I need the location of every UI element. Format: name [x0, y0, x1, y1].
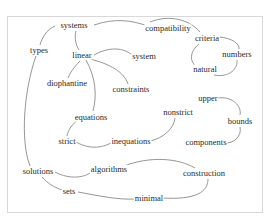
node-algorithms: algorithms — [90, 165, 128, 174]
node-criteria: criteria — [194, 34, 220, 43]
node-solutions: solutions — [22, 167, 55, 176]
node-types: types — [29, 46, 49, 55]
edge-linear-diophantine — [68, 61, 80, 78]
edge-construction-minimal — [162, 179, 208, 198]
edge-systems-compatibility — [94, 21, 148, 26]
edge-sets-minimal — [78, 192, 136, 199]
edge-types-solutions — [24, 56, 36, 166]
node-system: system — [131, 52, 157, 61]
node-strict: strict — [58, 137, 77, 146]
node-natural: natural — [192, 65, 218, 74]
node-systems: systems — [60, 21, 89, 30]
edge-systems-linear — [75, 31, 79, 50]
node-constraints: constraints — [112, 85, 151, 94]
node-equations: equations — [74, 113, 109, 122]
edge-criteria-natural — [191, 44, 199, 66]
node-construction: construction — [182, 169, 226, 178]
node-upper: upper — [197, 94, 218, 103]
edge-strict-inequations — [76, 141, 114, 147]
node-numbers: numbers — [221, 50, 252, 59]
node-bounds: bounds — [227, 117, 254, 126]
node-minimal: minimal — [134, 194, 164, 203]
edge-algorithms-construction — [124, 159, 195, 168]
edge-linear-system — [94, 49, 132, 55]
node-compatibility: compatibility — [144, 24, 191, 33]
node-diophantine: diophantine — [46, 79, 88, 88]
edge-solutions-algorithms — [55, 170, 94, 177]
node-linear: linear — [71, 51, 92, 60]
edge-solutions-sets — [42, 177, 62, 190]
edge-layer — [0, 0, 271, 220]
edge-systems-types — [40, 26, 55, 45]
edge-inequations-nonstrict — [150, 118, 175, 141]
diagram-canvas: systems compatibility types linear syste… — [0, 0, 271, 220]
edge-upper-bounds — [218, 98, 240, 115]
edge-criteria-numbers — [219, 37, 239, 49]
node-sets: sets — [62, 187, 77, 196]
edge-linear-constraints — [90, 59, 128, 84]
node-nonstrict: nonstrict — [162, 108, 194, 117]
node-components: components — [184, 138, 227, 147]
node-inequations: inequations — [110, 137, 151, 146]
